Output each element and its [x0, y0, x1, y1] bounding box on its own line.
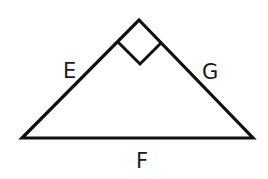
side-label-g: G	[202, 60, 218, 84]
diagram-canvas: E G F	[0, 0, 268, 179]
triangle-diagram: E G F	[0, 0, 268, 179]
side-label-f: F	[136, 149, 148, 173]
right-triangle	[22, 20, 253, 138]
side-label-e: E	[63, 59, 76, 83]
right-angle-marker	[118, 42, 162, 64]
